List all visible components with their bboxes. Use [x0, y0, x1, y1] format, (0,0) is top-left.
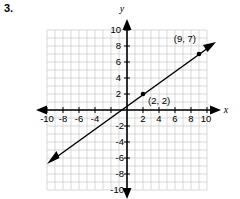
x-tick-label: -8	[59, 113, 67, 124]
x-axis-label: x	[223, 104, 229, 115]
y-tick-label: 8	[116, 40, 121, 51]
y-tick-label: -10	[110, 184, 124, 195]
point-label-9-7: (9, 7)	[174, 33, 196, 44]
x-tick-label: 10	[201, 113, 212, 124]
y-tick-label: -8	[116, 168, 124, 179]
graph-figure: 3.	[0, 0, 240, 199]
point-marker-9-7	[197, 52, 202, 57]
x-tick-labels: -10 -8 -6 -4 2 4 6 8 10	[40, 113, 211, 124]
x-axis-right-arrow	[210, 106, 221, 115]
y-tick-label: 2	[116, 88, 121, 99]
point-marker-2-2	[141, 92, 146, 97]
y-tick-label: -2	[116, 120, 124, 131]
x-tick-label: 4	[156, 113, 161, 124]
y-tick-label: 10	[110, 24, 121, 35]
y-tick-label: 6	[116, 56, 121, 67]
y-tick-label: -6	[116, 152, 124, 163]
x-tick-label: -4	[91, 113, 99, 124]
coordinate-plane-svg: -10 -8 -6 -4 2 4 6 8 10 10 8 6 4 2 -2 -4…	[0, 0, 240, 199]
point-label-2-2: (2, 2)	[148, 95, 170, 106]
y-tick-label: 4	[116, 72, 121, 83]
x-tick-label: -6	[75, 113, 83, 124]
line-lower-arrow	[47, 151, 60, 164]
y-axis-top-arrow	[123, 19, 132, 30]
problem-number: 3.	[4, 2, 13, 14]
x-tick-label: 8	[188, 113, 193, 124]
x-tick-label: -10	[40, 113, 54, 124]
y-tick-label: -4	[116, 136, 124, 147]
x-tick-label: 2	[140, 113, 145, 124]
x-tick-label: 6	[172, 113, 177, 124]
y-axis-label: y	[119, 3, 125, 14]
